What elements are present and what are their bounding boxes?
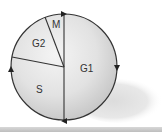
cell-cycle-diagram: M G2 S G1	[0, 0, 162, 132]
bottom-divider	[0, 127, 162, 132]
phase-label-s: S	[36, 84, 43, 95]
cell-cycle-svg: M G2 S G1	[0, 0, 162, 132]
phase-label-g2: G2	[32, 38, 46, 49]
phase-label-m: M	[52, 19, 60, 30]
phase-label-g1: G1	[80, 63, 94, 74]
